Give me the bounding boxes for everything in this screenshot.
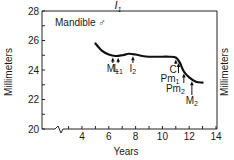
svg-text:14: 14: [210, 131, 222, 142]
tooth-annotations: M1L1I2CPm1Pm2M2: [107, 56, 198, 107]
svg-text:8: 8: [133, 131, 139, 142]
svg-text:4: 4: [79, 131, 85, 142]
svg-text:12: 12: [184, 131, 196, 142]
y-axis-label-right: Millimeters: [219, 48, 230, 96]
svg-text:26: 26: [28, 35, 40, 46]
svg-text:6: 6: [106, 131, 112, 142]
x-axis-label: Years: [113, 146, 138, 157]
tooth-label: I2: [130, 63, 137, 75]
x-axis: 468101214: [69, 126, 222, 142]
line-chart: 2022242628 468101214 M1L1I2CPm1Pm2M2 I1 …: [0, 0, 234, 160]
svg-text:28: 28: [28, 6, 40, 17]
svg-text:24: 24: [28, 65, 40, 76]
tooth-label: M2: [186, 95, 198, 107]
tooth-label: Pm2: [166, 83, 185, 95]
y-axis-label: Millimeters: [3, 48, 14, 96]
svg-text:20: 20: [28, 124, 40, 135]
svg-text:10: 10: [157, 131, 169, 142]
tooth-label: L1: [113, 63, 123, 75]
svg-text:22: 22: [28, 94, 40, 105]
mandible-label: Mandible ♂: [55, 17, 106, 28]
